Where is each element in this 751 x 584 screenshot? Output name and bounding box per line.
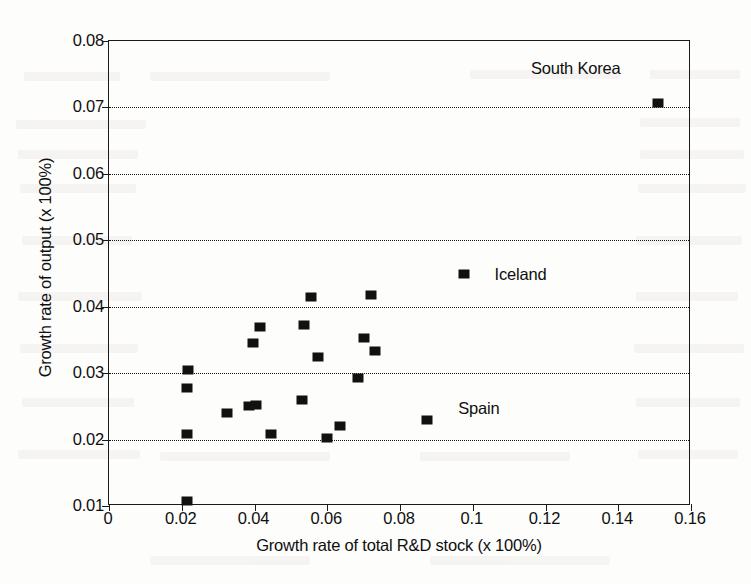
data-point-marker (247, 339, 258, 348)
data-point-marker (183, 365, 194, 374)
annotation-label: Iceland (495, 264, 547, 283)
x-tick-label: 0.14 (602, 509, 633, 528)
y-tick-label: 0.08 (73, 31, 104, 50)
y-tick-mark (102, 307, 109, 308)
y-tick-label: 0.06 (73, 163, 104, 182)
y-tick-label: 0.04 (73, 296, 104, 315)
data-point-marker (251, 401, 262, 410)
gridline (109, 174, 689, 175)
scatter-chart-figure: 0.010.020.030.040.050.060.070.08 South K… (0, 0, 751, 584)
data-point-marker (334, 422, 345, 431)
data-point-marker (298, 320, 309, 329)
data-point-marker (254, 322, 265, 331)
gridline (109, 240, 689, 241)
y-tick-label: 0.07 (73, 97, 104, 116)
data-point-marker (222, 409, 233, 418)
x-tick-label: 0.08 (383, 509, 414, 528)
data-point-marker (313, 352, 324, 361)
data-point-marker (322, 434, 333, 443)
data-point-marker (182, 430, 193, 439)
y-tick-label: 0.05 (73, 230, 104, 249)
x-axis-tick-labels: 00.020.040.060.080.10.120.140.16 (108, 509, 690, 535)
x-tick-label: 0.06 (311, 509, 342, 528)
gridline (109, 107, 689, 108)
y-tick-mark (102, 41, 109, 42)
data-point-marker (369, 347, 380, 356)
x-tick-label: 0.16 (674, 509, 705, 528)
y-tick-mark (102, 440, 109, 441)
gridline (109, 307, 689, 308)
data-point-marker (653, 98, 664, 107)
y-tick-mark (102, 174, 109, 175)
y-tick-mark (102, 506, 109, 507)
x-tick-label: 0.1 (461, 509, 483, 528)
data-point-marker (296, 395, 307, 404)
y-axis-title: Growth rate of output (x 100%) (36, 73, 55, 463)
gridline (109, 440, 689, 441)
x-axis-title: Growth rate of total R&D stock (x 100%) (108, 536, 690, 555)
y-tick-label: 0.03 (73, 363, 104, 382)
x-tick-label: 0.02 (165, 509, 196, 528)
data-point-marker (305, 292, 316, 301)
y-tick-mark (102, 373, 109, 374)
data-point-marker (358, 333, 369, 342)
gridline (109, 373, 689, 374)
annotation-label: South Korea (531, 58, 621, 77)
data-point-marker (365, 290, 376, 299)
data-point-marker (353, 374, 364, 383)
x-tick-label: 0.04 (238, 509, 269, 528)
y-tick-label: 0.01 (73, 496, 104, 515)
y-tick-mark (102, 240, 109, 241)
data-point-marker (182, 383, 193, 392)
y-tick-mark (102, 107, 109, 108)
x-tick-label: 0 (104, 509, 113, 528)
y-tick-label: 0.02 (73, 429, 104, 448)
plot-area: South KoreaIcelandSpain (108, 40, 690, 505)
data-point-marker (422, 415, 433, 424)
data-point-marker (265, 430, 276, 439)
annotation-label: Spain (458, 398, 499, 417)
x-tick-label: 0.12 (529, 509, 560, 528)
data-point-marker (182, 496, 193, 505)
data-point-marker (458, 269, 469, 278)
